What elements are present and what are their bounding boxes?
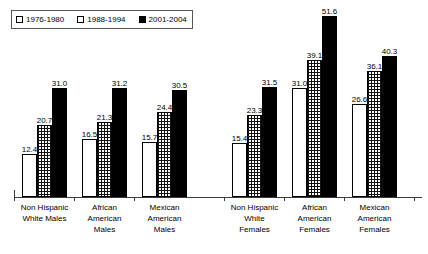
bar-value-label: 24.4: [157, 103, 173, 112]
bar-value-label: 40.3: [382, 47, 398, 56]
bars-layer: 12.420.731.016.521.331.215.724.430.515.4…: [0, 0, 428, 198]
bar-group: 26.636.140.3: [352, 1, 397, 197]
bar: 21.3: [97, 122, 112, 197]
bar-value-label: 26.6: [352, 95, 368, 104]
bar-group: 16.521.331.2: [82, 1, 127, 197]
bar-value-label: 31.0: [52, 79, 68, 88]
bar: 39.1: [307, 60, 322, 197]
bar-value-label: 31.5: [262, 78, 278, 87]
bar: 31.0: [52, 88, 67, 197]
bar-value-label: 31.2: [112, 79, 128, 88]
bar-value-label: 16.5: [82, 130, 98, 139]
bar: 12.4: [22, 154, 37, 197]
bar-value-label: 15.7: [142, 133, 158, 142]
category-label-line: Mexican: [337, 202, 413, 213]
plot-area: 12.420.731.016.521.331.215.724.430.515.4…: [0, 0, 428, 198]
bar-value-label: 51.6: [322, 7, 338, 16]
bar-group: 12.420.731.0: [22, 1, 67, 197]
bar: 30.5: [172, 90, 187, 197]
category-label: MexicanAmericanMales: [127, 202, 203, 235]
bar: 31.2: [112, 88, 127, 197]
bar: 36.1: [367, 71, 382, 197]
bar-value-label: 31.0: [292, 79, 308, 88]
category-label-line: Mexican: [127, 202, 203, 213]
x-axis-category-labels: Non HispanicWhite MalesAfricanAmericanMa…: [0, 202, 428, 252]
category-label-line: Males: [127, 224, 203, 235]
bar-group: 15.423.331.5: [232, 1, 277, 197]
bar-value-label: 12.4: [22, 145, 38, 154]
category-label-line: Females: [337, 224, 413, 235]
bar-value-label: 36.1: [367, 62, 383, 71]
bar: 31.5: [262, 87, 277, 197]
bar: 51.6: [322, 16, 337, 197]
bar-value-label: 23.3: [247, 106, 263, 115]
bar: 24.4: [157, 112, 172, 197]
bar: 15.7: [142, 142, 157, 197]
bar-chart: 1976-1980 1988-1994 2001-2004 12.420.731…: [0, 0, 428, 254]
bar-group: 31.039.151.6: [292, 1, 337, 197]
bar-value-label: 30.5: [172, 81, 188, 90]
category-label-line: American: [127, 213, 203, 224]
category-label: MexicanAmericanFemales: [337, 202, 413, 235]
bar: 15.4: [232, 143, 247, 197]
bar-value-label: 39.1: [307, 51, 323, 60]
bar-value-label: 15.4: [232, 134, 248, 143]
bar: 26.6: [352, 104, 367, 197]
bar-group: 15.724.430.5: [142, 1, 187, 197]
bar-value-label: 20.7: [37, 116, 53, 125]
bar: 31.0: [292, 88, 307, 197]
bar: 20.7: [37, 125, 52, 197]
bar: 23.3: [247, 115, 262, 197]
bar-value-label: 21.3: [97, 113, 113, 122]
bar: 16.5: [82, 139, 97, 197]
category-label-line: American: [337, 213, 413, 224]
bar: 40.3: [382, 56, 397, 197]
